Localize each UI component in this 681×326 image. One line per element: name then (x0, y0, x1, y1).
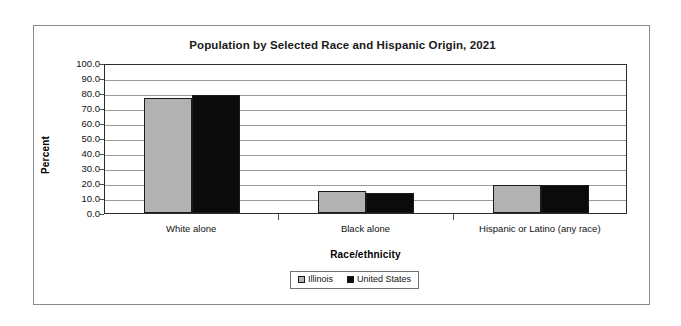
bar-group (279, 65, 453, 213)
y-axis-tick-label: 60.0 (56, 119, 100, 129)
y-axis-tick-labels: 100.090.080.070.060.050.040.030.020.010.… (56, 64, 100, 214)
x-axis-tick-label: Hispanic or Latino (any race) (453, 223, 627, 234)
category-separator (278, 214, 279, 220)
bars-layer (105, 65, 626, 213)
chart-title: Population by Selected Race and Hispanic… (34, 39, 651, 51)
y-axis-tick-label: 70.0 (56, 104, 100, 114)
legend-item[interactable]: Illinois (298, 274, 333, 285)
x-axis-tick-label: White alone (104, 223, 278, 234)
y-axis-tick-label: 0.0 (56, 209, 100, 219)
bar-united-states[interactable] (192, 95, 240, 213)
x-axis-tick-label: Black alone (278, 223, 452, 234)
legend-swatch-icon (347, 276, 354, 283)
y-axis-tick-label: 40.0 (56, 149, 100, 159)
plot-area (104, 64, 627, 214)
legend-swatch-icon (298, 276, 305, 283)
legend-item[interactable]: United States (347, 274, 411, 285)
y-axis-tick-label: 20.0 (56, 179, 100, 189)
x-axis-tick-labels: White aloneBlack aloneHispanic or Latino… (104, 223, 627, 237)
y-axis-tick-label: 50.0 (56, 134, 100, 144)
bar-united-states[interactable] (541, 185, 589, 214)
y-axis-tick-label: 10.0 (56, 194, 100, 204)
legend-label: United States (357, 274, 411, 285)
bar-illinois[interactable] (318, 191, 366, 213)
y-axis-tick-label: 90.0 (56, 74, 100, 84)
bar-group (454, 65, 628, 213)
bar-illinois[interactable] (144, 98, 192, 213)
y-axis-tick-label: 100.0 (56, 59, 100, 69)
bar-group (105, 65, 279, 213)
y-axis-title: Percent (40, 136, 54, 174)
y-axis-tick-label: 80.0 (56, 89, 100, 99)
bar-united-states[interactable] (366, 193, 414, 213)
chart-card: Population by Selected Race and Hispanic… (33, 25, 650, 305)
y-axis-tick-label: 30.0 (56, 164, 100, 174)
x-axis-title: Race/ethnicity (104, 249, 627, 260)
category-separator (453, 214, 454, 220)
bar-illinois[interactable] (493, 185, 541, 213)
chart-legend: IllinoisUnited States (290, 271, 419, 289)
category-axis-separators (104, 214, 627, 221)
legend-label: Illinois (308, 274, 333, 285)
